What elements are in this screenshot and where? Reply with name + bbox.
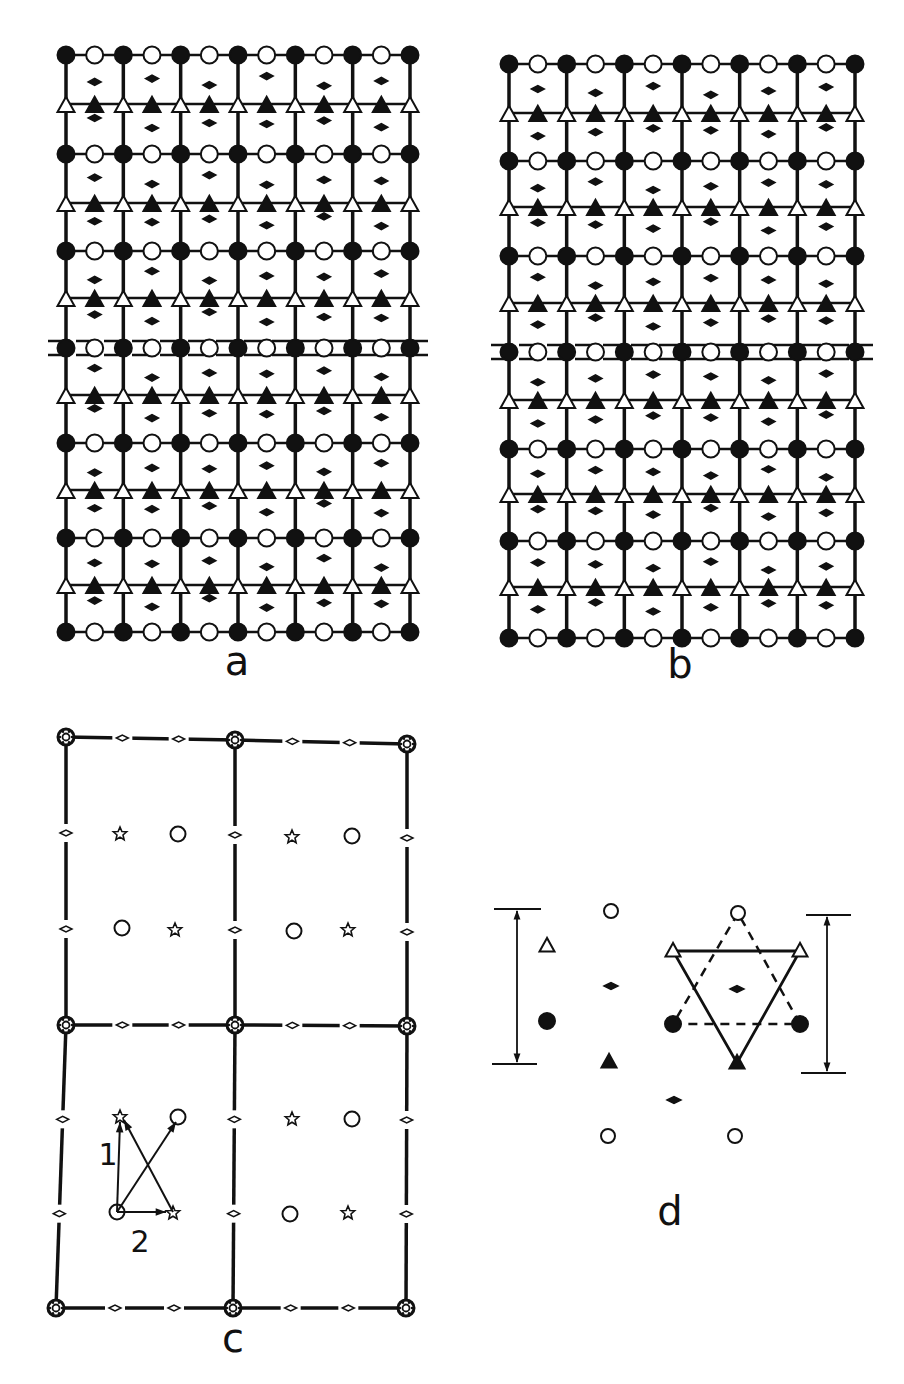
twofold-axis-symbol — [146, 125, 159, 132]
panel-a-lattice — [48, 47, 428, 641]
sixfold-dot — [237, 734, 239, 736]
twofold-axis-symbol — [589, 507, 602, 514]
open-circle-atom — [702, 248, 719, 265]
twofold-axis-symbol — [203, 309, 216, 316]
filled-circle-atom — [172, 624, 189, 641]
filled-circle-atom — [230, 530, 247, 547]
sixfold-axis-icon — [399, 1018, 415, 1034]
open-circle-atom — [144, 530, 161, 547]
twofold-axis-symbol — [318, 82, 331, 89]
twofold-axis-symbol — [704, 414, 717, 421]
twofold-axis-symbol — [647, 323, 660, 330]
twofold-axis-symbol — [589, 561, 602, 568]
twofold-axis-symbol — [647, 83, 660, 90]
sixfold-dot — [403, 1020, 405, 1022]
twofold-axis-symbol — [647, 608, 660, 615]
twofold-axis-symbol — [375, 270, 388, 277]
filled-circle-atom — [674, 153, 691, 170]
sixfold-dot — [71, 736, 73, 738]
twofold-axis-symbol — [762, 600, 775, 607]
open-circle-atom — [645, 248, 662, 265]
star-site-icon — [168, 923, 181, 936]
filled-circle-atom — [558, 248, 575, 265]
filled-circle-atom — [344, 624, 361, 641]
open-circle-atom — [201, 146, 218, 163]
vector-label-2: 2 — [130, 1224, 149, 1259]
open-circle-atom — [86, 340, 103, 357]
filled-circle-atom — [344, 146, 361, 163]
twofold-axis-symbol — [820, 124, 833, 131]
sixfold-dot — [237, 1029, 239, 1031]
twofold-axis-symbol — [589, 599, 602, 606]
twofold-axis-symbol — [762, 315, 775, 322]
twofold-axis-symbol — [260, 509, 273, 516]
twofold-axis-symbol — [647, 511, 660, 518]
sixfold-axis-icon — [398, 1300, 414, 1316]
filled-circle-atom — [847, 441, 864, 458]
filled-circle-atom — [558, 344, 575, 361]
filled-circle-site — [665, 1016, 681, 1032]
open-circle-atom — [201, 340, 218, 357]
open-circle-atom — [645, 344, 662, 361]
twofold-axis-symbol — [203, 215, 216, 222]
sixfold-dot — [52, 1302, 54, 1304]
twofold-axis-symbol — [762, 179, 775, 186]
twofold-axis-symbol — [203, 410, 216, 417]
twofold-axis-symbol — [318, 273, 331, 280]
open-circle-atom — [818, 533, 835, 550]
open-circle-atom — [702, 630, 719, 647]
open-circle-atom — [818, 56, 835, 73]
filled-circle-atom — [287, 340, 304, 357]
twofold-axis-symbol — [531, 321, 544, 328]
open-circle-atom — [201, 243, 218, 260]
open-circle-atom — [529, 344, 546, 361]
twofold-axis-symbol — [88, 115, 101, 122]
sixfold-dot — [402, 1302, 404, 1304]
filled-circle-atom — [847, 153, 864, 170]
open-circle-atom — [316, 435, 333, 452]
arrow-up-icon — [824, 916, 831, 925]
twofold-axis-symbol — [667, 1097, 681, 1104]
open-circle-atom — [529, 441, 546, 458]
twofold-axis-symbol — [647, 412, 660, 419]
open-circle-site — [283, 1207, 298, 1222]
twofold-axis-symbol — [375, 460, 388, 467]
twofold-axis-symbol — [203, 502, 216, 509]
twofold-axis-symbol — [589, 416, 602, 423]
filled-circle-atom — [558, 630, 575, 647]
sixfold-dot — [59, 736, 61, 738]
twofold-axis-symbol — [762, 566, 775, 573]
open-circle-atom — [587, 441, 604, 458]
open-circle-atom — [818, 630, 835, 647]
twofold-axis-symbol — [704, 558, 717, 565]
filled-circle-atom — [172, 47, 189, 64]
twofold-axis-symbol — [762, 513, 775, 520]
filled-circle-site — [539, 1013, 555, 1029]
twofold-axis-symbol — [820, 84, 833, 91]
filled-circle-atom — [558, 153, 575, 170]
filled-circle-atom — [789, 344, 806, 361]
open-circle-atom — [818, 441, 835, 458]
twofold-axis-symbol — [88, 218, 101, 225]
sixfold-dot — [68, 741, 70, 743]
panel-label-b: b — [667, 641, 692, 687]
filled-circle-atom — [344, 47, 361, 64]
twofold-axis-symbol — [88, 505, 101, 512]
sixfold-axis-icon — [399, 736, 415, 752]
twofold-axis-symbol — [203, 82, 216, 89]
twofold-axis-symbol — [375, 510, 388, 517]
filled-circle-atom — [115, 146, 132, 163]
twofold-axis-symbol — [704, 373, 717, 380]
sixfold-dot — [228, 739, 230, 741]
sixfold-axis-icon — [225, 1300, 241, 1316]
twofold-axis-symbol — [260, 604, 273, 611]
open-circle-atom — [373, 146, 390, 163]
open-circle-atom — [316, 146, 333, 163]
twofold-axis-symbol — [589, 89, 602, 96]
twofold-axis-symbol — [318, 500, 331, 507]
open-circle-atom — [818, 248, 835, 265]
filled-circle-atom — [172, 340, 189, 357]
twofold-axis-symbol — [88, 559, 101, 566]
sixfold-inner-ring — [63, 1022, 70, 1029]
filled-circle-atom — [616, 630, 633, 647]
